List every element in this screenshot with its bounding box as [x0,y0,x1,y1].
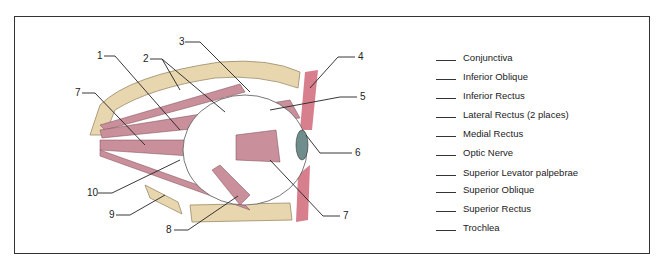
callout-7-left: 7 [75,87,81,98]
answer-blank[interactable] [436,175,456,176]
upper-eyelid [300,70,318,130]
callout-1: 1 [97,50,103,61]
callout-8: 8 [166,224,172,235]
answer-blank[interactable] [436,117,456,118]
legend-item: Superior Levator palpebrae [436,164,578,178]
callout-10: 10 [87,187,98,198]
cornea [296,130,308,160]
answer-blank[interactable] [436,155,456,156]
callout-3: 3 [179,36,185,47]
legend-item: Conjunctiva [436,49,513,63]
legend-item: Inferior Rectus [436,87,525,101]
answer-blank[interactable] [436,211,456,212]
legend-item: Lateral Rectus (2 places) [436,106,569,120]
answer-blank[interactable] [436,192,456,193]
callout-9: 9 [109,209,115,220]
legend-item: Trochlea [436,219,500,233]
legend-item: Inferior Oblique [436,68,528,82]
callout-2: 2 [143,53,149,64]
eye-muscle-illustration [0,0,669,267]
legend-item: Medial Rectus [436,125,523,139]
legend-item: Superior Rectus [436,200,531,214]
callout-4: 4 [358,51,364,62]
lateral-rectus [100,140,190,156]
orbit-floor-bone-left [145,185,182,214]
legend-item: Optic Nerve [436,144,513,158]
callout-6: 6 [355,147,361,158]
answer-blank[interactable] [436,230,456,231]
callout-5: 5 [360,91,366,102]
callout-7-right: 7 [343,210,349,221]
answer-blank[interactable] [436,98,456,99]
answer-blank[interactable] [436,136,456,137]
answer-blank[interactable] [436,79,456,80]
legend-item: Superior Oblique [436,181,534,195]
medial-rectus-insertion [236,130,280,162]
answer-blank[interactable] [436,60,456,61]
